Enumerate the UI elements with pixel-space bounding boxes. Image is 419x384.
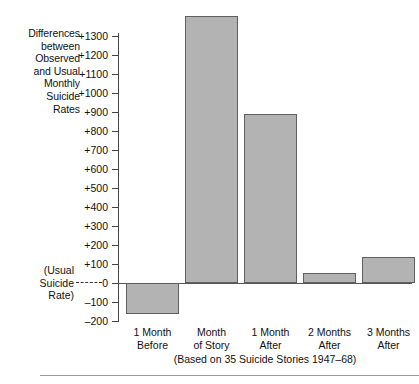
y-axis-tick bbox=[112, 74, 119, 75]
y-axis-tick-label-wrap: +500 bbox=[62, 183, 108, 194]
y-axis-tick-label: +400 bbox=[62, 202, 108, 213]
y-axis-spine bbox=[118, 33, 119, 321]
category-label-line: Month bbox=[178, 326, 245, 339]
y-axis-tick-label-wrap: 0 bbox=[62, 278, 108, 289]
y-axis-tick-label: +600 bbox=[62, 164, 108, 175]
y-axis-tick-label: –100 bbox=[62, 297, 108, 308]
y-axis-tick-label: +900 bbox=[62, 107, 108, 118]
y-axis-tick-label: +1300 bbox=[62, 31, 108, 42]
y-axis-tick bbox=[112, 55, 119, 56]
bar[interactable] bbox=[185, 16, 238, 283]
y-axis-tick bbox=[112, 283, 119, 284]
category-label-line: 1 Month bbox=[237, 326, 304, 339]
y-axis-tick-label-wrap: +1300 bbox=[62, 31, 108, 42]
bottom-divider-rule bbox=[40, 375, 419, 376]
category-label-line: Before bbox=[119, 339, 186, 352]
bar[interactable] bbox=[303, 273, 356, 283]
y-axis-tick bbox=[112, 188, 119, 189]
y-axis-tick bbox=[112, 112, 119, 113]
y-axis-tick-label-wrap: +800 bbox=[62, 126, 108, 137]
x-axis-category-label: 1 MonthBefore bbox=[119, 326, 186, 351]
y-axis-tick-label-wrap: +700 bbox=[62, 145, 108, 156]
chart-caption: (Based on 35 Suicide Stories 1947–68) bbox=[118, 353, 412, 365]
y-axis-tick-label: +300 bbox=[62, 221, 108, 232]
y-axis-tick-label: –200 bbox=[62, 316, 108, 327]
x-axis-category-label: 1 MonthAfter bbox=[237, 326, 304, 351]
y-axis-tick-label-wrap: +1200 bbox=[62, 50, 108, 61]
y-axis-tick-label: +1200 bbox=[62, 50, 108, 61]
bar[interactable] bbox=[362, 257, 415, 283]
y-axis-tick bbox=[112, 150, 119, 151]
y-axis-tick bbox=[112, 245, 119, 246]
y-axis-tick-label-wrap: +1000 bbox=[62, 88, 108, 99]
y-axis-tick-label-wrap: –100 bbox=[62, 297, 108, 308]
y-axis-tick-label-wrap: +100 bbox=[62, 259, 108, 270]
y-axis-tick-label: +100 bbox=[62, 259, 108, 270]
y-axis-tick-label-wrap: –200 bbox=[62, 316, 108, 327]
y-axis-tick bbox=[112, 36, 119, 37]
bar[interactable] bbox=[244, 114, 297, 283]
y-axis-tick-label-wrap: +200 bbox=[62, 240, 108, 251]
y-axis-tick-label: +700 bbox=[62, 145, 108, 156]
category-label-line: After bbox=[355, 339, 419, 352]
y-axis-tick-label-wrap: +600 bbox=[62, 164, 108, 175]
y-axis-tick bbox=[112, 207, 119, 208]
y-axis-tick-label: +800 bbox=[62, 126, 108, 137]
y-axis-tick bbox=[112, 169, 119, 170]
category-label-line: 2 Months bbox=[296, 326, 363, 339]
y-axis-tick-label: +200 bbox=[62, 240, 108, 251]
y-axis-tick-label: +500 bbox=[62, 183, 108, 194]
y-axis-tick-label-wrap: +300 bbox=[62, 221, 108, 232]
x-axis-category-label: 3 MonthsAfter bbox=[355, 326, 419, 351]
x-axis-category-label: Monthof Story bbox=[178, 326, 245, 351]
category-label-line: After bbox=[237, 339, 304, 352]
y-axis-tick bbox=[112, 226, 119, 227]
bar-chart-plot-area: +1300+1200+1100+1000+900+800+700+600+500… bbox=[0, 0, 419, 384]
y-axis-tick-label-wrap: +900 bbox=[62, 107, 108, 118]
category-label-line: After bbox=[296, 339, 363, 352]
y-axis-tick-label: +1000 bbox=[62, 88, 108, 99]
y-axis-tick bbox=[112, 93, 119, 94]
y-axis-tick-label: +1100 bbox=[62, 69, 108, 80]
y-axis-tick bbox=[112, 321, 119, 322]
category-label-line: 3 Months bbox=[355, 326, 419, 339]
category-label-line: 1 Month bbox=[119, 326, 186, 339]
y-axis-tick bbox=[112, 264, 119, 265]
bar[interactable] bbox=[126, 283, 179, 314]
y-axis-tick-label-wrap: +1100 bbox=[62, 69, 108, 80]
y-axis-tick-label-wrap: +400 bbox=[62, 202, 108, 213]
y-axis-tick bbox=[112, 302, 119, 303]
x-axis-category-label: 2 MonthsAfter bbox=[296, 326, 363, 351]
y-axis-tick bbox=[112, 131, 119, 132]
category-label-line: of Story bbox=[178, 339, 245, 352]
y-axis-tick-label: 0 bbox=[62, 278, 108, 289]
